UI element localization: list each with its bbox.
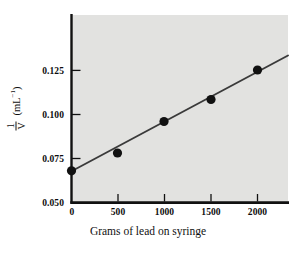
data-point bbox=[67, 166, 76, 175]
y-axis-ticks bbox=[72, 70, 81, 158]
x-axis-tick-labels: 0 500 1000 1500 2000 bbox=[0, 207, 296, 221]
data-point bbox=[253, 65, 262, 74]
x-axis-ticks bbox=[118, 194, 258, 202]
y-axis-fraction-denominator: V bbox=[16, 121, 26, 130]
data-point bbox=[206, 95, 215, 104]
y-tick-label: 0.075 bbox=[28, 154, 64, 164]
y-axis-unit-exponent: −1 bbox=[9, 90, 17, 97]
x-tick-label: 1000 bbox=[143, 207, 187, 217]
data-point bbox=[113, 148, 122, 157]
y-axis-fraction: 1 V bbox=[5, 121, 26, 130]
y-axis-unit: (mL−1) bbox=[11, 87, 22, 116]
y-tick-label: 0.125 bbox=[28, 66, 64, 76]
y-axis-unit-open: (mL bbox=[11, 98, 22, 116]
x-axis-title: Grams of lead on syringe bbox=[0, 225, 296, 237]
x-tick-label: 1500 bbox=[189, 207, 233, 217]
y-axis-unit-close: ) bbox=[11, 87, 22, 91]
axes-group bbox=[70, 14, 289, 204]
x-tick-label: 500 bbox=[96, 207, 140, 217]
y-axis-title: 1 V (mL−1) bbox=[6, 59, 27, 159]
y-tick-label: 0.050 bbox=[28, 198, 64, 208]
data-point bbox=[159, 117, 168, 126]
chart-figure: 0.125 0.100 0.075 0.050 0 500 1000 1500 … bbox=[0, 0, 296, 253]
y-tick-label: 0.100 bbox=[28, 110, 64, 120]
y-axis-fraction-numerator: 1 bbox=[5, 121, 16, 130]
x-tick-label: 0 bbox=[50, 207, 94, 217]
x-tick-label: 2000 bbox=[236, 207, 280, 217]
